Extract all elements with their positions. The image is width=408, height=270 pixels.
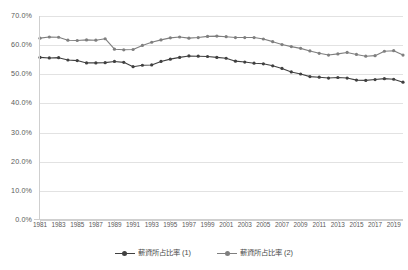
legend-item-2[interactable]: 薪資所占比率 (2) (217, 249, 293, 257)
data-point (308, 75, 311, 78)
x-axis-tickmark (96, 219, 97, 222)
data-point (159, 38, 162, 41)
data-point (373, 78, 376, 81)
data-point (401, 81, 404, 84)
x-axis-tick-label: 1987 (89, 222, 103, 228)
data-point (159, 60, 162, 63)
x-axis-tickmark (282, 219, 283, 222)
data-point (355, 53, 358, 56)
x-axis-tickmark (375, 219, 376, 222)
data-point (150, 41, 153, 44)
data-point (234, 36, 237, 39)
data-point (336, 76, 339, 79)
data-point (76, 59, 79, 62)
x-axis-tick-label: 1981 (33, 222, 47, 228)
x-axis-tick-label: 1985 (70, 222, 84, 228)
data-point (215, 56, 218, 59)
data-point (271, 40, 274, 43)
data-point (57, 56, 60, 59)
data-point (94, 39, 97, 42)
data-point (383, 50, 386, 53)
data-point (225, 57, 228, 60)
data-point (262, 37, 265, 40)
data-point (262, 62, 265, 65)
data-point (271, 64, 274, 67)
data-point (392, 49, 395, 52)
x-axis-tickmark (59, 219, 60, 222)
data-point (299, 47, 302, 50)
legend-marker-icon (115, 249, 135, 257)
data-point (383, 77, 386, 80)
x-axis-tick-label: 2013 (331, 222, 345, 228)
x-axis-line (34, 219, 403, 220)
series-1 (38, 54, 404, 83)
legend-label: 薪資所占比率 (1) (138, 249, 191, 256)
data-point (252, 62, 255, 65)
data-point (197, 36, 200, 39)
series-container (40, 16, 403, 220)
x-axis-tick-label: 2001 (219, 222, 233, 228)
x-axis-tickmark (170, 219, 171, 222)
data-point (364, 55, 367, 58)
data-point (225, 35, 228, 38)
x-axis-tickmark (226, 219, 227, 222)
data-point (104, 61, 107, 64)
y-axis-line (39, 16, 40, 220)
x-axis-tickmark (319, 219, 320, 222)
y-axis-tick-label: 40.0% (11, 100, 32, 107)
data-point (113, 48, 116, 51)
data-point (141, 64, 144, 67)
x-axis-tickmark (189, 219, 190, 222)
data-point (122, 48, 125, 51)
legend-item-1[interactable]: 薪資所占比率 (1) (115, 249, 191, 257)
x-axis-tick-label: 2009 (294, 222, 308, 228)
data-point (178, 56, 181, 59)
x-axis-tick-label: 2011 (312, 222, 326, 228)
data-point (187, 37, 190, 40)
x-axis-tickmark (263, 219, 264, 222)
data-point (122, 61, 125, 64)
data-point (85, 61, 88, 64)
x-axis-tickmark (338, 219, 339, 222)
data-point (243, 60, 246, 63)
data-point (364, 79, 367, 82)
y-axis-tick-label: 20.0% (11, 158, 32, 165)
data-point (280, 43, 283, 46)
y-axis-tick-label: 10.0% (11, 187, 32, 194)
data-point (187, 54, 190, 57)
x-axis-tickmark (208, 219, 209, 222)
data-point (355, 79, 358, 82)
plot-area (40, 16, 403, 220)
data-point (206, 35, 209, 38)
data-point (104, 37, 107, 40)
data-point (299, 72, 302, 75)
x-axis-tick-label: 1989 (107, 222, 121, 228)
x-axis-tickmark (152, 219, 153, 222)
data-point (318, 52, 321, 55)
data-point (308, 49, 311, 52)
x-axis-tick-label: 2005 (256, 222, 270, 228)
x-axis-tick-label: 2015 (349, 222, 363, 228)
x-axis-tick-label: 2007 (275, 222, 289, 228)
data-point (85, 38, 88, 41)
x-axis-tick-label: 1983 (52, 222, 66, 228)
y-axis-tick-label: 50.0% (11, 71, 32, 78)
data-point (206, 55, 209, 58)
data-point (215, 35, 218, 38)
data-point (141, 44, 144, 47)
x-axis-tick-label: 1995 (163, 222, 177, 228)
y-axis-tick-label: 30.0% (11, 129, 32, 136)
data-point (401, 53, 404, 56)
x-axis-tickmark (301, 219, 302, 222)
y-axis-tick-label: 60.0% (11, 42, 32, 49)
y-axis-tick-label: 70.0% (11, 12, 32, 19)
x-axis-tickmark (394, 219, 395, 222)
data-point (113, 60, 116, 63)
data-point (280, 67, 283, 70)
x-axis-tick-label: 2019 (387, 222, 401, 228)
x-axis-tickmark (114, 219, 115, 222)
data-point (243, 36, 246, 39)
data-point (197, 55, 200, 58)
data-point (178, 35, 181, 38)
y-axis-tick-label: 0.0% (15, 216, 32, 223)
